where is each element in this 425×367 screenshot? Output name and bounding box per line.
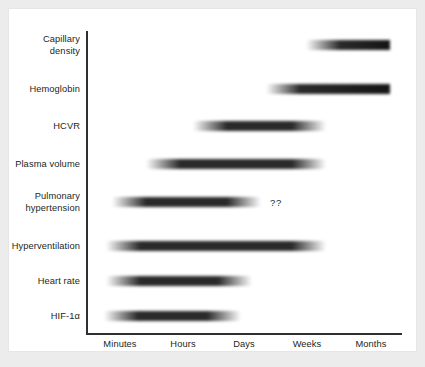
row-label-hif-1: HIF-1α (0, 311, 80, 323)
x-tick-label-weeks: Weeks (293, 339, 322, 349)
bar-hcvr (193, 121, 326, 131)
bar-capillary-density (306, 40, 390, 50)
row-label-capillary-density: Capillary density (0, 34, 80, 57)
figure-panel: Capillary densityHemoglobinHCVRPlasma vo… (8, 8, 417, 352)
bar-hyperventilation (106, 241, 326, 251)
bar-pulmonary-hypertension (112, 197, 261, 207)
row-label-heart-rate: Heart rate (0, 276, 80, 288)
x-axis-line (86, 333, 402, 335)
row-label-hemoglobin: Hemoglobin (0, 84, 80, 96)
row-label-pulmonary-hypertension: Pulmonary hypertension (0, 191, 80, 214)
row-label-hcvr: HCVR (0, 121, 80, 133)
plot-area: Capillary densityHemoglobinHCVRPlasma vo… (9, 9, 418, 353)
x-tick-label-days: Days (233, 339, 255, 349)
row-label-plasma-volume: Plasma volume (0, 159, 80, 171)
pulmonary-hypertension-unknown-annotation: ?? (270, 197, 282, 208)
x-tick-label-hours: Hours (170, 339, 195, 349)
row-label-hyperventilation: Hyperventilation (0, 241, 80, 253)
x-tick-label-months: Months (355, 339, 386, 349)
y-axis-line (86, 31, 88, 335)
bar-heart-rate (106, 276, 252, 286)
bar-plasma-volume (146, 159, 326, 169)
bar-hemoglobin (266, 84, 390, 94)
bar-hif-1 (104, 311, 241, 321)
x-tick-label-minutes: Minutes (103, 339, 136, 349)
